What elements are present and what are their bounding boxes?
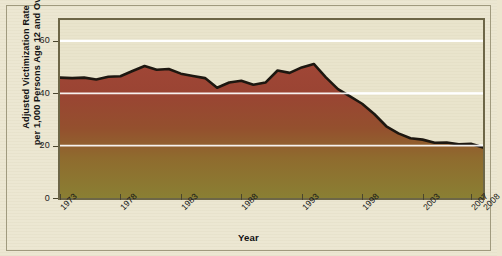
x-tick-mark — [471, 194, 472, 200]
x-tick-mark — [302, 194, 303, 200]
y-axis-title-line2: per 1,000 Persons Age 12 and Over — [32, 0, 42, 145]
y-axis-title: Adjusted Victimization Rate per 1,000 Pe… — [10, 20, 32, 200]
area-fill — [60, 64, 483, 198]
y-tick-label: 60 — [40, 36, 50, 45]
x-tick-mark — [483, 194, 484, 200]
y-axis-title-line1: Adjusted Victimization Rate — [21, 5, 31, 129]
x-tick-mark — [423, 194, 424, 200]
y-tick-label: 20 — [40, 141, 50, 150]
area-chart-svg — [60, 20, 483, 198]
x-tick-mark — [181, 194, 182, 200]
plot-area — [58, 18, 485, 200]
x-axis-title: Year — [0, 232, 497, 243]
y-tick-label: 0 — [45, 194, 50, 203]
x-tick-mark — [362, 194, 363, 200]
x-tick-mark — [60, 194, 61, 200]
x-tick-mark — [241, 194, 242, 200]
y-tick-label: 40 — [40, 89, 50, 98]
x-tick-mark — [120, 194, 121, 200]
